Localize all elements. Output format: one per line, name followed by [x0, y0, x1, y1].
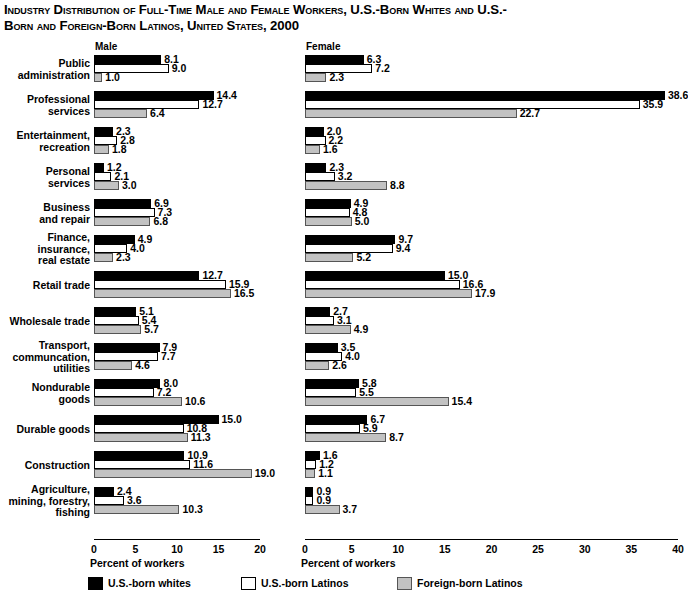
- bar-track: 10.9: [94, 451, 260, 460]
- bar: [305, 307, 330, 316]
- bar-track: 5.2: [305, 253, 678, 262]
- bar: [94, 433, 188, 442]
- bar: [94, 451, 184, 460]
- bar-track: 5.9: [305, 424, 678, 433]
- bar: [94, 235, 135, 244]
- legend-swatch: [397, 577, 412, 590]
- x-axis-tick-label: 15: [439, 543, 451, 555]
- bar-track: 4.9: [305, 325, 678, 334]
- x-axis-tick-label: 10: [171, 543, 183, 555]
- bar: [305, 415, 367, 424]
- bar-track: 3.7: [305, 505, 678, 514]
- bar-track: 6.4: [94, 109, 260, 118]
- bar: [94, 73, 102, 82]
- category-label: Transport,communcation,utilities: [0, 340, 90, 375]
- bar-track: 4.0: [305, 352, 678, 361]
- bar-track: 1.6: [305, 451, 678, 460]
- bar-value-label: 2.3: [116, 251, 131, 263]
- category-label-line: services: [0, 178, 90, 190]
- bar-track: 5.7: [94, 325, 260, 334]
- bar-track: 10.3: [94, 505, 260, 514]
- bar-value-label: 5.2: [356, 251, 371, 263]
- x-axis-tick-label: 5: [133, 543, 139, 555]
- bar: [305, 451, 320, 460]
- category-label-line: Public: [0, 58, 90, 70]
- bar-track: 2.6: [305, 361, 678, 370]
- bar: [305, 91, 665, 100]
- x-axis-female: [305, 539, 678, 540]
- bar-track: 2.7: [305, 307, 678, 316]
- panel-heading-female: Female: [306, 41, 340, 52]
- bar: [305, 100, 640, 109]
- bar-value-label: 11.3: [191, 431, 211, 443]
- bar: [305, 127, 324, 136]
- chart-row: Construction10.911.619.01.61.21.1: [0, 451, 685, 487]
- category-label: Durable goods: [0, 424, 90, 436]
- bar-track: 2.3: [94, 253, 260, 262]
- bar-track: 3.6: [94, 496, 260, 505]
- x-axis-tick-label: 25: [532, 543, 544, 555]
- category-label-line: utilities: [0, 363, 90, 375]
- bar: [94, 343, 160, 352]
- bar-value-label: 4.9: [354, 323, 369, 335]
- bar: [94, 388, 154, 397]
- category-label-line: Nondurable: [0, 382, 90, 394]
- bar-value-label: 3.0: [122, 179, 137, 191]
- bar-value-label: 4.6: [135, 359, 150, 371]
- bar-value-label: 1.8: [112, 143, 127, 155]
- bar: [94, 424, 184, 433]
- bar: [305, 199, 351, 208]
- legend-item: Foreign-born Latinos: [397, 576, 523, 590]
- bar: [94, 181, 119, 190]
- bar: [305, 469, 315, 478]
- chart-row: Nondurablegoods8.07.210.65.85.515.4: [0, 379, 685, 415]
- category-label-line: Professional: [0, 94, 90, 106]
- bar-value-label: 16.5: [234, 287, 254, 299]
- bar: [305, 55, 364, 64]
- category-label-line: Personal: [0, 166, 90, 178]
- bar-track: 9.7: [305, 235, 678, 244]
- category-label-line: goods: [0, 394, 90, 406]
- bar-track: 3.0: [94, 181, 260, 190]
- category-label-line: recreation: [0, 142, 90, 154]
- bar-value-label: 1.0: [105, 71, 120, 83]
- bar-track: 7.7: [94, 352, 260, 361]
- category-label: Personalservices: [0, 166, 90, 189]
- category-label-line: Entertainment,: [0, 130, 90, 142]
- chart-row: Personalservices1.22.13.02.33.28.8: [0, 163, 685, 199]
- bar-track: 11.3: [94, 433, 260, 442]
- bar: [305, 271, 445, 280]
- bar-track: 5.0: [305, 217, 678, 226]
- bar-track: 3.2: [305, 172, 678, 181]
- bar-value-label: 6.4: [150, 107, 165, 119]
- bar-track: 2.3: [305, 163, 678, 172]
- bar: [305, 235, 395, 244]
- x-axis-tick-label: 0: [91, 543, 97, 555]
- bar-value-label: 2.6: [332, 359, 347, 371]
- bar: [94, 469, 252, 478]
- category-label: Nondurablegoods: [0, 382, 90, 405]
- bar: [305, 487, 313, 496]
- bar-value-label: 8.7: [389, 431, 404, 443]
- category-label-line: services: [0, 106, 90, 118]
- x-axis-tick-label: 20: [486, 543, 498, 555]
- bar-track: 11.6: [94, 460, 260, 469]
- bar: [305, 109, 517, 118]
- legend-label: U.S.-born Latinos: [261, 577, 349, 589]
- legend-item: U.S.-born whites: [88, 576, 191, 590]
- bar-track: 7.2: [305, 64, 678, 73]
- bar-track: 17.9: [305, 289, 678, 298]
- x-axis-title-male: Percent of workers: [90, 557, 185, 569]
- bar: [94, 127, 113, 136]
- bar-track: 16.5: [94, 289, 260, 298]
- bar: [94, 208, 155, 217]
- bar: [94, 487, 114, 496]
- bar: [305, 172, 335, 181]
- chart-row: Entertainment,recreation2.32.81.82.02.21…: [0, 127, 685, 163]
- bar-value-label: 8.8: [390, 179, 405, 191]
- bar-value-label: 15.4: [452, 395, 472, 407]
- bar-value-label: 10.6: [185, 395, 205, 407]
- bar: [94, 217, 150, 226]
- bar-track: 6.7: [305, 415, 678, 424]
- x-axis-tick-label: 20: [254, 543, 266, 555]
